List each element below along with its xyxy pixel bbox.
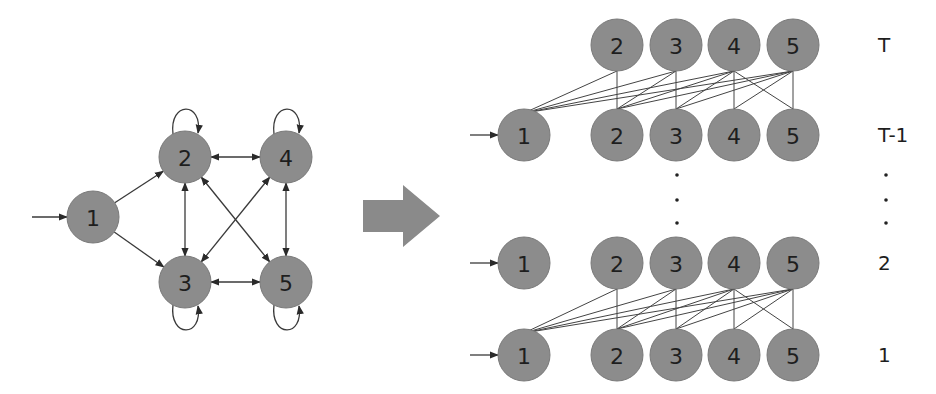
transition-2-1 [524,289,617,333]
node-label: 4 [279,146,293,171]
node-label: 5 [786,344,800,369]
lattice-node-T-1-5: 5 [767,109,819,161]
lattice-node-T-1-2: 2 [591,109,643,161]
transition-3-1 [524,71,676,113]
state-node-4: 4 [260,131,312,183]
node-label: 2 [610,252,624,277]
node-label: 3 [669,124,683,149]
node-label: 4 [727,34,741,59]
transition-5-1 [524,289,793,333]
node-label: 3 [669,252,683,277]
transition-3-2 [617,289,676,329]
time-step-label: 2 [878,251,891,275]
self-loop-3 [173,305,199,330]
node-label: 1 [517,124,531,149]
self-loop-5 [274,305,300,330]
ellipsis-dot [884,198,888,202]
lattice-node-2-2: 2 [591,237,643,289]
right-unrolled-lattice: 2345T12345T-1123452123451 [470,19,908,381]
lattice-node-2-1: 1 [498,237,550,289]
state-node-3: 3 [159,256,211,308]
ellipsis-dot [884,173,888,177]
node-label: 5 [786,252,800,277]
node-label: 4 [727,252,741,277]
lattice-node-1-1: 1 [498,329,550,381]
lattice-node-1-3: 3 [650,329,702,381]
node-label: 5 [786,34,800,59]
edge-1-to-2 [115,171,163,203]
node-label: 4 [727,124,741,149]
self-loop-2 [173,109,199,134]
node-label: 3 [669,34,683,59]
transform-arrow-icon [363,185,440,247]
transition-5-1 [524,71,793,113]
node-label: 2 [610,124,624,149]
edge-1-to-3 [114,232,164,267]
lattice-node-2-5: 5 [767,237,819,289]
lattice-node-T-3: 3 [650,19,702,71]
lattice-node-T-2: 2 [591,19,643,71]
lattice-node-1-2: 2 [591,329,643,381]
lattice-node-2-4: 4 [708,237,760,289]
node-label: 1 [517,252,531,277]
node-label: 1 [517,344,531,369]
lattice-node-2-3: 3 [650,237,702,289]
node-label: 4 [727,344,741,369]
time-step-label: T-1 [877,123,908,147]
state-node-1: 1 [67,191,119,243]
ellipsis-dot [884,221,888,225]
ellipsis-dot [675,221,679,225]
node-label: 5 [786,124,800,149]
ellipsis-dot [675,173,679,177]
self-loop-4 [274,109,300,134]
lattice-node-T-4: 4 [708,19,760,71]
node-label: 1 [86,206,100,231]
state-node-5: 5 [260,256,312,308]
lattice-node-T-1-3: 3 [650,109,702,161]
node-label: 2 [610,34,624,59]
node-label: 2 [610,344,624,369]
transition-2-1 [524,71,617,113]
lattice-node-1-5: 5 [767,329,819,381]
transition-3-1 [524,289,676,333]
node-label: 5 [279,271,293,296]
ellipsis-dot [675,198,679,202]
transition-3-2 [617,71,676,109]
lattice-node-1-4: 4 [708,329,760,381]
hmm-unrolling-diagram: 12345 2345T12345T-1123452123451 [0,0,936,394]
left-state-graph: 12345 [32,109,312,330]
node-label: 3 [178,271,192,296]
node-label: 2 [178,146,192,171]
lattice-node-T-5: 5 [767,19,819,71]
time-step-label: T [877,33,891,57]
time-step-label: 1 [878,343,891,367]
node-label: 3 [669,344,683,369]
lattice-node-T-1-1: 1 [498,109,550,161]
state-node-2: 2 [159,131,211,183]
lattice-node-T-1-4: 4 [708,109,760,161]
